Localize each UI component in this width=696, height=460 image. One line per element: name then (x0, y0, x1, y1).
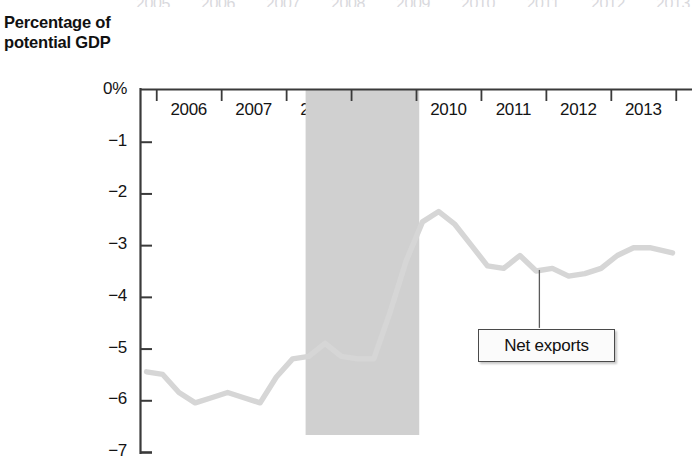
chart-container: Percentage ofpotential GDP 2005200620072… (0, 0, 696, 460)
recession-shading-group (306, 90, 420, 435)
plot-area (0, 0, 696, 460)
net-exports-callout-label: Net exports (504, 336, 589, 356)
net-exports-callout[interactable]: Net exports (478, 329, 615, 362)
recession-band (306, 90, 420, 435)
